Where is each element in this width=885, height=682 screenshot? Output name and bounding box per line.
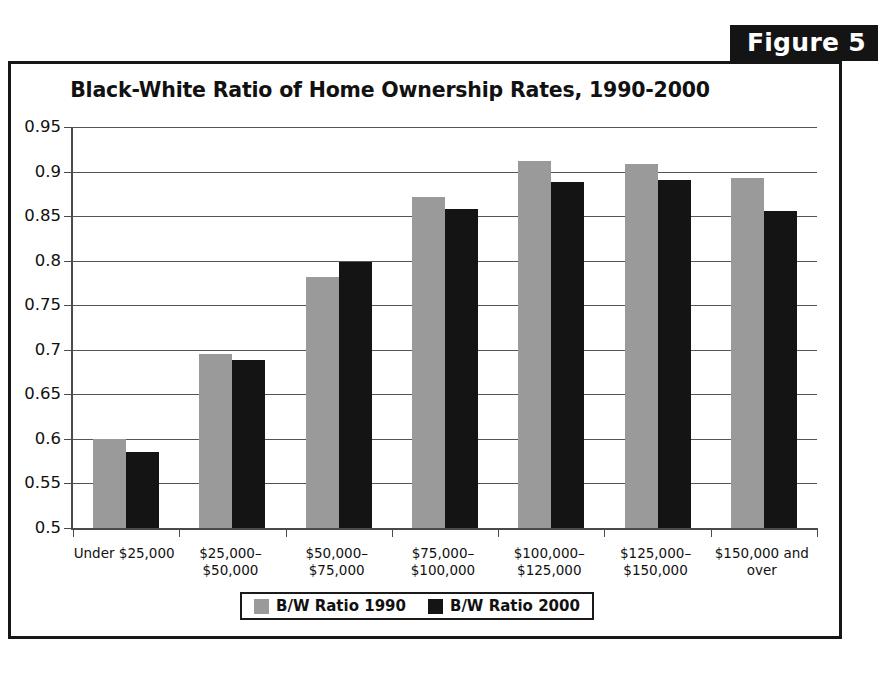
y-axis-tick — [64, 127, 73, 128]
x-axis-category-label: $75,000– $100,000 — [390, 545, 496, 579]
y-axis-tick — [64, 216, 73, 217]
y-axis-tick-label: 0.55 — [3, 475, 61, 492]
bar-1990 — [199, 354, 232, 528]
y-axis-tick-label: 0.6 — [3, 431, 61, 448]
legend-label: B/W Ratio 2000 — [450, 597, 580, 615]
plot-area — [71, 127, 817, 530]
bar-2000 — [339, 262, 372, 528]
y-axis-tick — [64, 350, 73, 351]
y-axis-tick-label: 0.8 — [3, 253, 61, 270]
bar-2000 — [658, 180, 691, 528]
y-axis-tick-label: 0.5 — [3, 520, 61, 537]
bar-2000 — [551, 182, 584, 528]
y-axis-tick-label: 0.85 — [3, 208, 61, 225]
bar-1990 — [518, 161, 551, 528]
x-axis-tick — [817, 528, 818, 537]
y-axis-tick-label: 0.95 — [3, 119, 61, 136]
x-axis-tick — [604, 528, 605, 537]
y-axis-tick-label: 0.65 — [3, 386, 61, 403]
bar-2000 — [126, 452, 159, 528]
bar-1990 — [625, 164, 658, 528]
y-axis-tick — [64, 305, 73, 306]
y-axis-tick — [64, 172, 73, 173]
legend-swatch-icon — [428, 599, 443, 614]
bar-2000 — [764, 211, 797, 528]
y-axis-tick — [64, 528, 73, 529]
bar-2000 — [232, 360, 265, 528]
x-axis-category-label: Under $25,000 — [71, 545, 177, 562]
y-axis-tick-label: 0.9 — [3, 164, 61, 181]
legend-item: B/W Ratio 2000 — [428, 597, 580, 615]
x-axis-category-label: $150,000 and over — [709, 545, 815, 579]
x-axis-category-label: $50,000–$75,000 — [284, 545, 390, 579]
y-axis-tick — [64, 394, 73, 395]
legend-label: B/W Ratio 1990 — [276, 597, 406, 615]
x-axis-category-label: $100,000– $125,000 — [496, 545, 602, 579]
figure-root: Figure 5 Black-White Ratio of Home Owner… — [0, 0, 885, 682]
y-axis-tick-label: 0.75 — [3, 297, 61, 314]
gridline — [73, 172, 817, 173]
y-axis-tick — [64, 261, 73, 262]
chart-legend: B/W Ratio 1990B/W Ratio 2000 — [240, 592, 594, 620]
x-axis-category-label: $125,000– $150,000 — [602, 545, 708, 579]
y-axis-tick — [64, 483, 73, 484]
bar-1990 — [306, 277, 339, 528]
x-axis-tick — [711, 528, 712, 537]
x-axis-tick — [73, 528, 74, 537]
legend-swatch-icon — [254, 599, 269, 614]
bar-1990 — [93, 439, 126, 528]
legend-item: B/W Ratio 1990 — [254, 597, 406, 615]
x-axis-tick — [392, 528, 393, 537]
bar-1990 — [731, 178, 764, 528]
y-axis-tick-label: 0.7 — [3, 342, 61, 359]
gridline — [73, 127, 817, 128]
bar-1990 — [412, 197, 445, 528]
x-axis-tick — [498, 528, 499, 537]
bar-2000 — [445, 209, 478, 528]
x-axis-tick — [179, 528, 180, 537]
figure-number-tab: Figure 5 — [730, 25, 878, 61]
x-axis-category-label: $25,000–$50,000 — [177, 545, 283, 579]
x-axis-tick — [286, 528, 287, 537]
chart-title: Black-White Ratio of Home Ownership Rate… — [40, 78, 740, 102]
y-axis-tick — [64, 439, 73, 440]
